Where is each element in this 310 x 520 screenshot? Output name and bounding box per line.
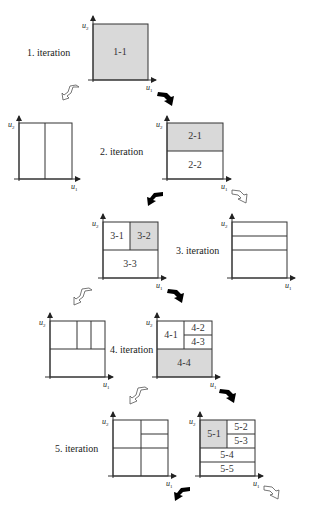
cell-5-4-label: 5-4: [220, 449, 233, 460]
solid-arrow-icon: [147, 192, 163, 206]
hollow-arrow-icon: [62, 85, 79, 100]
iteration-4-label: 4. iteration: [110, 344, 153, 355]
iteration-2-label: 2. iteration: [100, 146, 143, 157]
diagram-iteration-5-alternative: u2 u1: [102, 412, 176, 489]
u1-axis-label: u1: [71, 182, 78, 192]
cell-3-2-label: 3-2: [137, 230, 150, 241]
hollow-arrow-icon: [232, 190, 247, 203]
u1-axis-label: u1: [166, 479, 173, 489]
cell-4-1-label: 4-1: [164, 329, 177, 340]
u2-axis-label: u2: [102, 417, 109, 427]
diagram-iteration-3-alternative: u2 u1: [221, 214, 295, 291]
diagram-iteration-4-alternative: u2 u1: [39, 313, 113, 390]
u2-axis-label: u2: [146, 318, 153, 328]
cell-3-1-label: 3-1: [110, 230, 123, 241]
diagram-iteration-3: u2 u1 3-1 3-2 3-3: [92, 214, 166, 291]
cell-3-3-label: 3-3: [123, 258, 136, 269]
u1-axis-label: u1: [210, 380, 217, 390]
cell-5-1-label: 5-1: [207, 428, 220, 439]
hollow-arrow-icon: [130, 387, 148, 404]
cell-5-3-label: 5-3: [234, 435, 247, 446]
diagram-iteration-5: u2 u1 5-1 5-2 5-3 5-4 5-5: [189, 412, 263, 489]
u1-axis-label: u1: [285, 281, 292, 291]
u2-axis-label: u2: [221, 219, 228, 229]
cell-1-1-label: 1-1: [113, 46, 126, 57]
solid-arrow-icon: [167, 289, 184, 303]
hollow-arrow-icon: [264, 486, 279, 499]
u2-axis-label: u2: [39, 318, 46, 328]
cell-2-1-label: 2-1: [188, 130, 201, 141]
u1-axis-label: u1: [103, 380, 110, 390]
u1-axis-label: u1: [146, 83, 153, 93]
iteration-5-label: 5. iteration: [55, 443, 98, 454]
u2-axis-label: u2: [8, 120, 15, 130]
u2-axis-label: u2: [189, 417, 196, 427]
solid-arrow-icon: [174, 487, 190, 501]
iteration-3-label: 3. iteration: [176, 245, 219, 256]
diagram-iteration-2-alternative: u2 u1: [8, 116, 80, 192]
subdivision-diagram: 1. iteration u2 u1 1-1 2. iteration u2 u…: [0, 0, 310, 520]
u1-axis-label: u1: [253, 479, 260, 489]
cell-5-2-label: 5-2: [234, 421, 247, 432]
u2-axis-label: u2: [82, 21, 89, 31]
cell-2-2-label: 2-2: [188, 159, 201, 170]
u2-axis-label: u2: [92, 219, 99, 229]
solid-arrow-icon: [219, 389, 236, 403]
diagram-iteration-2: u2 u1 2-1 2-2: [156, 116, 231, 192]
u1-axis-label: u1: [221, 182, 228, 192]
cell-4-3-label: 4-3: [191, 336, 204, 347]
diagram-iteration-4: u2 u1 4-1 4-2 4-3 4-4: [146, 313, 220, 390]
u2-axis-label: u2: [156, 120, 163, 130]
solid-arrow-icon: [157, 92, 174, 106]
diagram-iteration-1: u2 u1 1-1: [82, 16, 156, 93]
u1-axis-label: u1: [156, 281, 163, 291]
iteration-1-label: 1. iteration: [27, 47, 70, 58]
hollow-arrow-icon: [74, 288, 92, 305]
cell-4-4-label: 4-4: [177, 357, 190, 368]
cell-4-2-label: 4-2: [191, 322, 204, 333]
cell-5-5-label: 5-5: [220, 463, 233, 474]
